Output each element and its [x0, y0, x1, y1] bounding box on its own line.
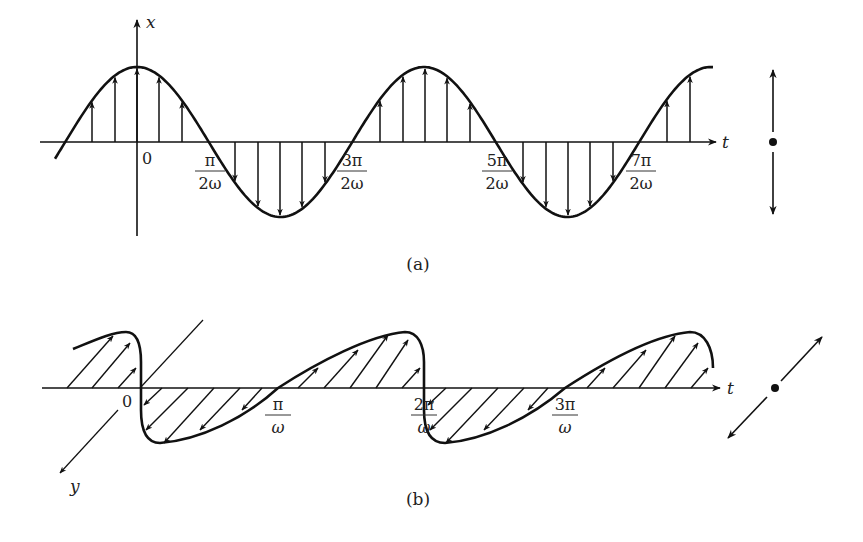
panel-a: x t 0 π2ω3π2ω5π2ω7π2ω (a) — [40, 12, 777, 274]
y-axis-lower — [60, 410, 118, 473]
field-vector — [200, 388, 240, 430]
tick-numerator: π — [273, 395, 284, 414]
field-vector — [402, 368, 420, 388]
tick-numerator: π — [205, 151, 216, 170]
tick-numerator: 3π — [555, 395, 576, 414]
field-vector — [587, 368, 605, 388]
field-vector — [376, 340, 408, 388]
polarization-indicator-b — [728, 337, 822, 438]
tick-labels-a: π2ω3π2ω5π2ω7π2ω — [195, 151, 656, 193]
origin-label-a: 0 — [142, 149, 152, 168]
field-vector — [144, 388, 162, 405]
tick-numerator: 5π — [487, 151, 508, 170]
caption-a: (a) — [406, 254, 429, 274]
tick-denominator: 2ω — [629, 174, 652, 193]
tick-numerator: 3π — [342, 151, 363, 170]
t-axis-label-a: t — [722, 132, 729, 152]
field-vector — [528, 388, 548, 410]
tick-denominator: 2ω — [198, 174, 221, 193]
field-vector — [446, 388, 498, 443]
x-axis-label: x — [146, 12, 156, 32]
field-vector — [164, 388, 214, 443]
y-axis-label: y — [69, 476, 80, 496]
panel-b: y t 0 πω2πω3πω (b) — [42, 320, 822, 509]
field-vector — [430, 388, 472, 430]
tick-denominator: 2ω — [340, 174, 363, 193]
tick-denominator: 2ω — [485, 174, 508, 193]
field-vector — [484, 388, 524, 430]
field-vectors-b — [67, 335, 708, 443]
y-axis-upper — [140, 320, 203, 388]
t-axis-label-b: t — [727, 378, 734, 398]
tick-numerator: 2π — [414, 395, 435, 414]
field-vector — [118, 368, 136, 388]
field-vector — [67, 336, 113, 388]
tick-denominator: ω — [558, 418, 571, 437]
tick-denominator: ω — [417, 418, 430, 437]
polarization-figure: x t 0 π2ω3π2ω5π2ω7π2ω (a) y t 0 πω2πω3πω — [0, 0, 863, 542]
field-vector — [350, 335, 388, 388]
tick-labels-b: πω2πω3πω — [265, 395, 578, 437]
field-vector — [665, 343, 698, 388]
field-vector — [324, 350, 358, 388]
tick-numerator: 7π — [631, 151, 652, 170]
tick-denominator: ω — [271, 418, 284, 437]
field-vector — [242, 388, 262, 410]
field-vector — [691, 368, 708, 388]
origin-label-b: 0 — [122, 392, 132, 411]
polarization-indicator-a — [769, 70, 777, 214]
caption-b: (b) — [406, 489, 430, 509]
